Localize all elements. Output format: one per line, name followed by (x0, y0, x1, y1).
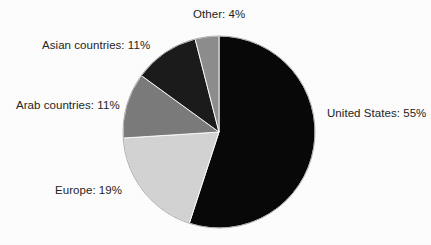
slice-label-asian-countries: Asian countries: 11% (42, 40, 150, 52)
slice-label-europe: Europe: 19% (55, 185, 122, 197)
slice-label-other: Other: 4% (193, 9, 245, 21)
pie-chart-svg (0, 0, 431, 245)
pie-chart-figure: United States: 55% Europe: 19% Arab coun… (0, 0, 431, 245)
pie-slices (123, 36, 315, 228)
slice-label-arab-countries: Arab countries: 11% (16, 100, 120, 112)
chart-area: United States: 55% Europe: 19% Arab coun… (0, 0, 431, 245)
slice-label-united-states: United States: 55% (327, 108, 426, 120)
